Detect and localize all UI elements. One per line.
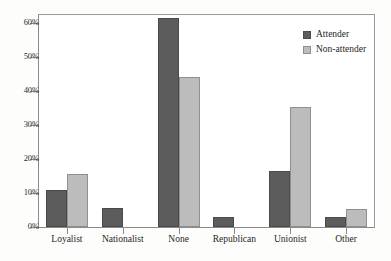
- x-axis-label-other: Other: [335, 234, 357, 244]
- y-axis-label: 50%: [5, 52, 39, 61]
- chart-legend: AttenderNon-attender: [303, 28, 366, 58]
- y-axis-label: 10%: [5, 188, 39, 197]
- bar-none-non-attender: [179, 77, 200, 227]
- legend-item-label: Attender: [316, 30, 349, 40]
- bar-unionist-non-attender: [290, 107, 311, 227]
- bar-chart: 60%50%40%30%20%10%0% LoyalistNationalist…: [0, 0, 391, 261]
- y-axis-label: 40%: [5, 86, 39, 95]
- legend-item-attender: Attender: [303, 28, 366, 41]
- x-axis-label-loyalist: Loyalist: [51, 234, 82, 244]
- x-axis-label-unionist: Unionist: [274, 234, 307, 244]
- bar-loyalist-attender: [46, 190, 67, 227]
- legend-swatch-icon: [303, 46, 311, 54]
- y-axis-label: 20%: [5, 154, 39, 163]
- bar-loyalist-non-attender: [67, 174, 88, 227]
- bar-other-non-attender: [346, 209, 367, 227]
- bar-other-attender: [325, 217, 346, 227]
- y-axis-label: 60%: [5, 18, 39, 27]
- x-axis-label-none: None: [168, 234, 189, 244]
- scan-artifact-band: [0, 0, 391, 9]
- y-axis-label: 0%: [5, 222, 39, 231]
- x-axis-label-republican: Republican: [213, 234, 256, 244]
- bar-nationalist-attender: [102, 208, 123, 227]
- legend-swatch-icon: [303, 31, 311, 39]
- legend-item-nonattender: Non-attender: [303, 43, 366, 56]
- y-axis-label: 30%: [5, 120, 39, 129]
- bar-republican-attender: [213, 217, 234, 227]
- bar-unionist-attender: [269, 171, 290, 227]
- x-axis-label-nationalist: Nationalist: [102, 234, 144, 244]
- legend-item-label: Non-attender: [316, 45, 366, 55]
- bar-none-attender: [158, 18, 179, 227]
